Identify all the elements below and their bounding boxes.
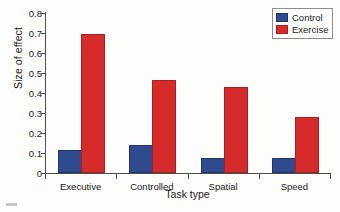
y-axis-tick-mark <box>41 113 45 114</box>
y-axis-tick-label: 0.1 <box>18 148 42 159</box>
y-axis-tick-mark <box>41 53 45 54</box>
bar-exercise-speed <box>295 117 319 173</box>
bar-control-executive <box>58 150 82 173</box>
legend: Control Exercise <box>272 8 333 39</box>
y-axis-tick-mark <box>41 153 45 154</box>
bar-exercise-controlled <box>152 80 176 173</box>
x-axis-title: Task type <box>45 188 330 200</box>
y-axis-tick-mark <box>41 33 45 34</box>
legend-swatch-control-icon <box>276 13 288 22</box>
y-axis-tick-label: 0.5 <box>18 68 42 79</box>
y-axis-tick-mark <box>41 73 45 74</box>
scan-artifact <box>6 203 17 206</box>
y-axis-tick-label: 0 <box>18 168 42 179</box>
legend-label-exercise: Exercise <box>292 24 328 35</box>
bar-exercise-executive <box>81 34 105 173</box>
x-axis-tick-mark <box>45 174 46 179</box>
legend-label-control: Control <box>292 12 323 23</box>
y-axis-tick-label: 0.7 <box>18 28 42 39</box>
y-axis-tick-label: 0.2 <box>18 128 42 139</box>
bar-control-spatial <box>201 158 225 173</box>
bar-control-speed <box>272 158 296 173</box>
x-axis-tick-mark <box>188 174 189 179</box>
y-axis-tick-mark <box>41 93 45 94</box>
y-axis-tick-labels: 0.80.70.60.50.40.30.20.10 <box>14 0 42 212</box>
y-axis-tick-mark <box>41 13 45 14</box>
x-axis-tick-mark <box>330 174 331 179</box>
y-axis-tick-mark <box>41 133 45 134</box>
legend-item-exercise: Exercise <box>276 23 328 35</box>
bar-chart: Size of effect 0.80.70.60.50.40.30.20.10… <box>0 0 340 212</box>
y-axis-tick-label: 0.3 <box>18 108 42 119</box>
bar-exercise-spatial <box>224 87 248 173</box>
x-axis-tick-mark <box>259 174 260 179</box>
legend-item-control: Control <box>276 11 328 23</box>
bar-control-controlled <box>129 145 153 173</box>
y-axis-tick-label: 0.8 <box>18 8 42 19</box>
y-axis-line <box>45 12 46 174</box>
legend-swatch-exercise-icon <box>276 25 288 34</box>
x-axis-tick-mark <box>116 174 117 179</box>
y-axis-tick-label: 0.4 <box>18 88 42 99</box>
y-axis-tick-label: 0.6 <box>18 48 42 59</box>
